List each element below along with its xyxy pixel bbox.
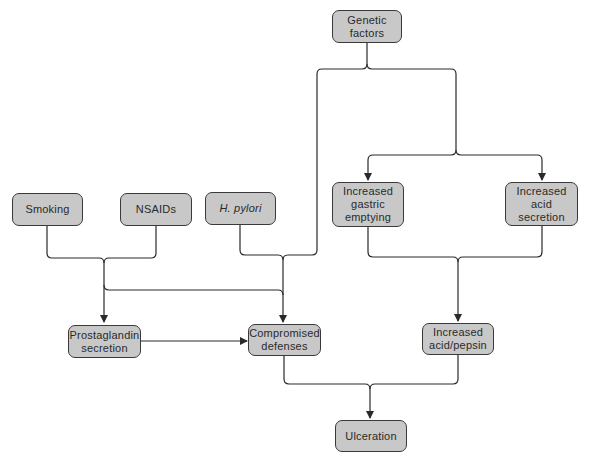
- node-label: Increased acid secretion: [506, 185, 577, 224]
- node-increased-acid-secretion: Increased acid secretion: [505, 182, 578, 226]
- connector-lines: [0, 0, 591, 461]
- node-label: Increased gastric emptying: [343, 185, 393, 224]
- node-label: Ulceration: [345, 430, 397, 443]
- node-genetic-factors: Genetic factors: [332, 10, 402, 43]
- node-label: H. pylori: [219, 202, 261, 215]
- node-ulceration: Ulceration: [335, 420, 407, 452]
- node-prostaglandin-secretion: Prostaglandin secretion: [68, 325, 141, 358]
- node-smoking: Smoking: [12, 193, 83, 226]
- node-nsaids: NSAIDs: [120, 193, 192, 226]
- node-increased-gastric-emptying: Increased gastric emptying: [332, 182, 404, 227]
- node-label: Increased acid/pepsin: [429, 326, 487, 352]
- node-label: Prostaglandin secretion: [70, 329, 140, 355]
- node-compromised-defenses: Compromised defenses: [248, 324, 321, 356]
- node-label: Compromised defenses: [249, 327, 320, 353]
- node-label: Genetic factors: [347, 14, 386, 40]
- node-label: NSAIDs: [136, 203, 176, 216]
- node-h-pylori: H. pylori: [205, 192, 276, 225]
- node-increased-acid-pepsin: Increased acid/pepsin: [422, 323, 494, 355]
- node-label: Smoking: [25, 203, 69, 216]
